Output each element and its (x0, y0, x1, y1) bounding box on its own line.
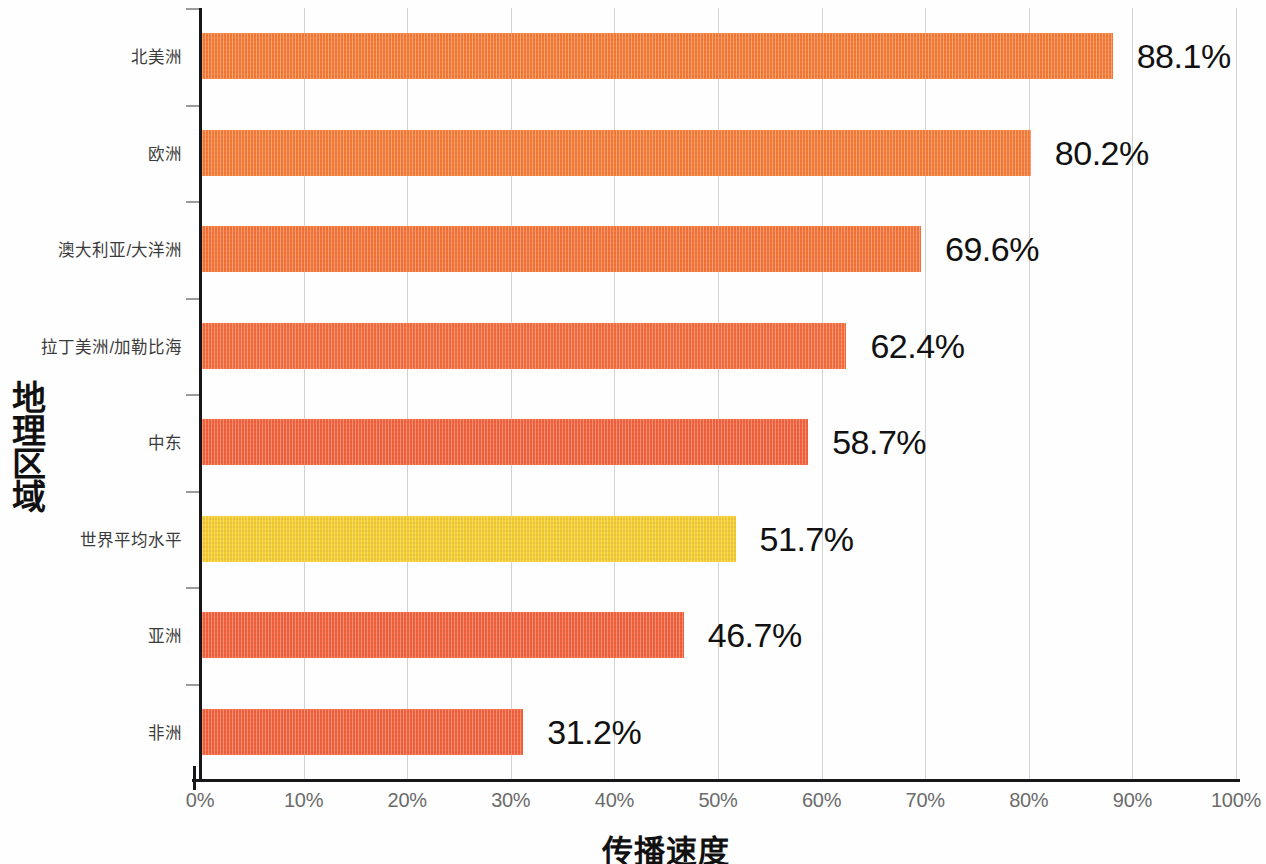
y-axis-tick (186, 298, 199, 300)
gridline (718, 8, 719, 780)
y-axis-tick (186, 394, 199, 396)
bar[interactable] (200, 226, 921, 272)
y-axis-tick (186, 8, 199, 10)
y-axis-category-label: 拉丁美洲/加勒比海 (0, 334, 182, 358)
gridline (925, 8, 926, 780)
bar[interactable] (200, 323, 846, 369)
gridline (511, 8, 512, 780)
y-axis-category-label: 世界平均水平 (0, 527, 182, 551)
y-axis-tick (186, 105, 199, 107)
y-axis-tick (186, 201, 199, 203)
bar-value-label: 31.2% (547, 712, 641, 751)
x-axis-tick-label: 60% (802, 789, 841, 812)
bar-value-label: 58.7% (832, 423, 926, 462)
bar-value-label: 88.1% (1137, 37, 1231, 76)
y-axis-category-labels: 北美洲欧洲澳大利亚/大洋洲拉丁美洲/加勒比海中东世界平均水平亚洲非洲 (0, 0, 190, 780)
y-axis-category-label: 中东 (0, 430, 182, 454)
y-axis-origin-tick (193, 766, 196, 790)
bar-value-label: 69.6% (945, 230, 1039, 269)
x-axis-tick-label: 50% (698, 789, 737, 812)
gridline (1132, 8, 1133, 780)
x-axis-line (192, 779, 1240, 782)
gridline (1236, 8, 1237, 780)
y-axis-category-label: 亚洲 (0, 623, 182, 647)
y-axis-category-label: 欧洲 (0, 141, 182, 165)
gridline (1029, 8, 1030, 780)
x-axis-title-text: 传播速度 (602, 826, 730, 864)
bar[interactable] (200, 612, 684, 658)
bar-value-label: 46.7% (708, 616, 802, 655)
x-axis-tick-label: 70% (906, 789, 945, 812)
y-axis-category-label: 非洲 (0, 720, 182, 744)
x-axis-tick-label: 0% (186, 789, 214, 812)
y-axis-tick (186, 684, 199, 686)
x-axis-tick-label: 20% (388, 789, 427, 812)
y-axis-category-label: 北美洲 (0, 44, 182, 68)
x-axis-title: 传播速度 (0, 826, 1266, 864)
gridline (407, 8, 408, 780)
y-axis-category-label: 澳大利亚/大洋洲 (0, 237, 182, 261)
bar[interactable] (200, 33, 1113, 79)
x-axis-tick-label: 100% (1211, 789, 1261, 812)
bar[interactable] (200, 130, 1031, 176)
bar[interactable] (200, 516, 736, 562)
y-axis-tick (186, 491, 199, 493)
bar-chart: 地 理 区 域 北美洲欧洲澳大利亚/大洋洲拉丁美洲/加勒比海中东世界平均水平亚洲… (0, 0, 1266, 864)
y-axis-tick (186, 587, 199, 589)
x-axis-tick-label: 40% (595, 789, 634, 812)
bar[interactable] (200, 419, 808, 465)
bar-value-label: 80.2% (1055, 133, 1149, 172)
x-axis-tick-label: 30% (491, 789, 530, 812)
y-axis-line (199, 8, 202, 780)
x-axis-tick-label: 80% (1009, 789, 1048, 812)
bar-value-label: 51.7% (760, 519, 854, 558)
x-axis-tick-label: 90% (1113, 789, 1152, 812)
plot-area (200, 8, 1236, 780)
gridline (822, 8, 823, 780)
gridline (304, 8, 305, 780)
x-axis-tick-label: 10% (284, 789, 323, 812)
gridline (614, 8, 615, 780)
bar-value-label: 62.4% (870, 326, 964, 365)
bar[interactable] (200, 709, 523, 755)
